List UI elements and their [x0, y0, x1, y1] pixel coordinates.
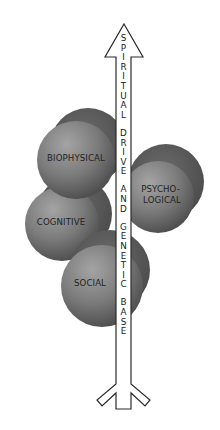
arrow-letter: V [120, 157, 126, 167]
arrow-letter: I [122, 71, 125, 81]
arrow-letter: E [121, 166, 127, 176]
arrow-letter: R [120, 138, 126, 148]
arrow-letter: I [122, 270, 125, 280]
arrow-letter: B [120, 297, 126, 307]
arrow-letter: L [121, 110, 126, 120]
arrow-letter: E [121, 326, 127, 336]
arrow-letter: A [120, 184, 126, 194]
arrow-letter: E [121, 231, 127, 241]
arrow-letter: C [120, 279, 126, 289]
sphere-psychological: PSYCHO- LOGICAL [122, 144, 204, 233]
arrow-letter: S [121, 33, 127, 43]
arrow-letter: I [122, 52, 125, 62]
arrow-letter: N [120, 241, 127, 251]
arrow-letter: D [120, 128, 127, 138]
arrow-letter: T [120, 260, 127, 270]
arrow-letter: A [120, 100, 126, 110]
arrow-letter: T [120, 81, 127, 91]
arrow-letter: N [120, 194, 127, 204]
diagram: COGNITIVE BIOPHYSICAL PSYCHO- LOGICAL SO… [0, 0, 220, 430]
arrow-letter: P [121, 43, 126, 53]
label-cognitive: COGNITIVE [37, 217, 85, 227]
arrow-letter: S [121, 317, 127, 327]
arrow-letter: A [120, 307, 126, 317]
sphere-biophysical: BIOPHYSICAL [37, 108, 126, 199]
arrow-letter: I [122, 147, 125, 157]
label-psychological: PSYCHO- LOGICAL [141, 184, 183, 205]
arrow-letter: U [120, 91, 126, 101]
arrow-letter: D [120, 204, 127, 214]
label-social: SOCIAL [74, 278, 106, 288]
arrow-letter: R [120, 62, 126, 72]
arrow-letter: G [120, 222, 127, 232]
label-biophysical: BIOPHYSICAL [47, 153, 105, 163]
arrow-letter: E [121, 251, 127, 261]
